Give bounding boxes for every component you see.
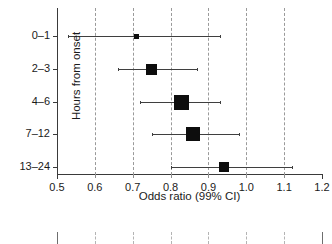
x-tick-0.6 [95,175,96,178]
y-axis-line [57,8,58,175]
ci-cap-3-low [140,101,141,104]
ci-whisker-5 [171,167,292,168]
gridline-0.9 [208,8,209,175]
ci-cap-1-high [220,35,221,38]
x-tick-1.1 [284,175,285,178]
point-marker-4 [186,127,200,141]
gridline-1.1 [284,8,285,175]
y-tick-label-1: 0–1 [4,30,50,41]
x-axis-title: Odds ratio (99% CI) [57,190,322,202]
y-axis-title: Hours from onset [70,6,82,146]
lower-panel-gridline-0.6 [95,232,96,244]
x-tick-1.2 [322,175,323,179]
ci-cap-3-high [220,101,221,104]
ci-cap-2-high [197,68,198,71]
x-axis-line [57,174,323,175]
gridline-0.8 [171,8,172,175]
ci-cap-4-high [239,133,240,136]
lower-panel-gridline-0.9 [208,232,209,244]
x-tick-0.7 [133,175,134,178]
y-tick-label-3: 4–6 [4,96,50,107]
y-tick-3 [53,102,58,103]
lower-panel-crop [57,232,322,244]
forest-plot-figure: 0.50.60.70.80.91.01.11.2 0–12–34–67–1213… [0,0,332,244]
lower-panel-edge-0.5 [57,232,58,244]
lower-panel-gridline-0.8 [171,232,172,244]
gridline-1 [246,8,247,175]
y-tick-1 [53,36,58,37]
lower-panel-edge-1.2 [322,232,323,244]
plot-area: 0.50.60.70.80.91.01.11.2 0–12–34–67–1213… [57,8,322,175]
point-marker-2 [146,64,157,75]
x-tick-0.8 [171,175,172,178]
lower-panel-gridline-1.1 [284,232,285,244]
y-tick-2 [53,69,58,70]
y-tick-label-5: 13–24 [4,161,50,172]
point-marker-3 [174,95,189,110]
point-marker-5 [219,162,229,172]
y-tick-4 [53,134,58,135]
gridline-0.6 [95,8,96,175]
x-tick-0.9 [208,175,209,178]
y-tick-label-4: 7–12 [4,128,50,139]
ci-whisker-2 [118,69,198,70]
lower-panel-gridline-1 [246,232,247,244]
ci-whisker-1 [68,36,219,37]
x-tick-0.5 [57,175,58,179]
ci-cap-5-high [292,166,293,169]
y-tick-label-2: 2–3 [4,63,50,74]
ci-cap-4-low [152,133,153,136]
lower-panel-gridline-0.7 [133,232,134,244]
x-tick-1 [246,175,247,178]
ci-cap-5-low [171,166,172,169]
ci-cap-2-low [118,68,119,71]
point-marker-1 [134,34,139,39]
y-tick-5 [53,167,58,168]
